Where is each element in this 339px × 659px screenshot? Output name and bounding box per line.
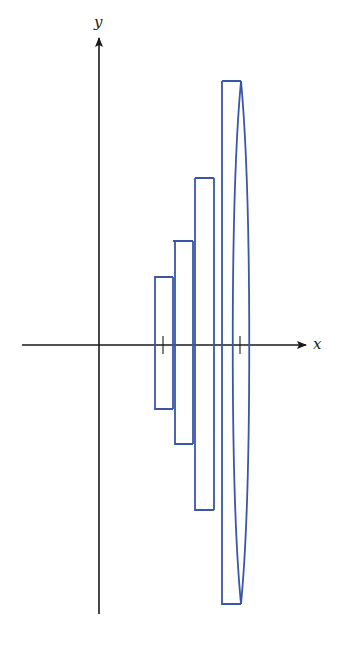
x-axis-label: x	[313, 335, 322, 353]
disk-3	[193, 178, 214, 510]
y-axis-label: y	[93, 13, 103, 31]
disk-4	[214, 81, 241, 604]
diagram-canvas: x y	[0, 0, 339, 659]
disk-4-face-front	[241, 81, 249, 604]
disk-1	[155, 277, 173, 409]
disk-2	[173, 241, 193, 444]
